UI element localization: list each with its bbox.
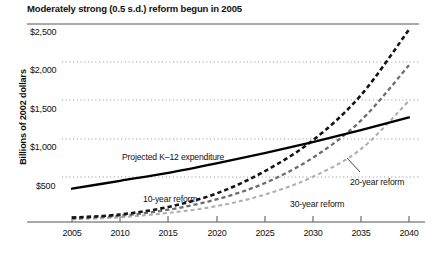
series-line-30-year-reform bbox=[72, 101, 409, 219]
series-line-10-year-reform bbox=[72, 30, 409, 218]
series-line-projected-expenditure bbox=[72, 117, 409, 188]
chart-figure: Moderately strong (0.5 s.d.) reform begu… bbox=[0, 0, 433, 253]
leader-line-20-year bbox=[347, 158, 360, 172]
series-line-20-year-reform bbox=[72, 65, 409, 218]
gridlines bbox=[62, 62, 419, 177]
plot-area bbox=[0, 0, 433, 253]
